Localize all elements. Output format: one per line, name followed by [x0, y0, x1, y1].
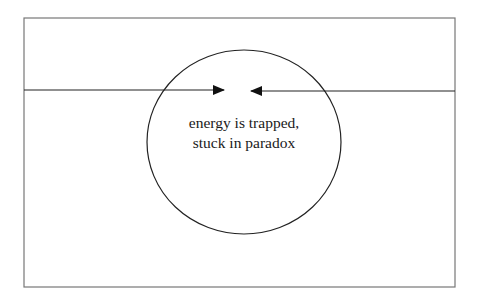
outer-frame: [24, 18, 455, 287]
paradox-diagram: energy is trapped, stuck in paradox: [0, 0, 478, 306]
label-line-2: stuck in paradox: [193, 134, 296, 151]
label-line-1: energy is trapped,: [189, 114, 299, 131]
